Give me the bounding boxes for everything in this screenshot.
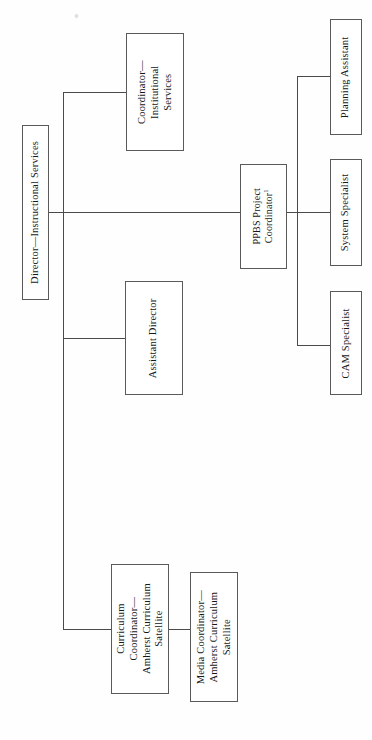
node-assistant-director-label: Assistant Director: [148, 298, 161, 378]
node-ppbs-project-coordinator[interactable]: PPBS ProjectCoordinator1: [240, 164, 287, 269]
media-line-3: Satellite: [220, 619, 231, 655]
org-chart-canvas: Director—Instructional Services Coordina…: [0, 0, 372, 740]
node-ppbs-project-coordinator-label: PPBS ProjectCoordinator1: [251, 188, 275, 245]
connector-to-planning-assistant: [297, 76, 330, 77]
node-director-label: Director—Instructional Services: [29, 141, 42, 284]
connector-curriculum-to-media: [169, 629, 190, 630]
connector-to-cam-specialist: [297, 345, 330, 346]
node-coordinator-institutional-services-label: Coordinator—InstitutionalServices: [136, 60, 174, 124]
node-cam-specialist[interactable]: CAM Specialist: [330, 291, 362, 395]
node-coordinator-institutional-services[interactable]: Coordinator—InstitutionalServices: [126, 33, 184, 151]
node-system-specialist-label: System Specialist: [340, 174, 353, 252]
connector-specialists-trunk: [297, 76, 298, 346]
coordinator-institutional-line-1: Coordinator—: [136, 60, 147, 124]
node-system-specialist[interactable]: System Specialist: [330, 159, 362, 266]
node-media-coordinator-label: Media Coordinator—Amherst CurriculumSate…: [195, 590, 233, 684]
connector-ppbs-to-specialists: [287, 212, 330, 213]
curriculum-line-1: Curriculum: [114, 604, 125, 654]
media-line-1: Media Coordinator—: [195, 590, 206, 684]
media-line-2: Amherst Curriculum: [208, 592, 219, 683]
scan-artifact-speck: [74, 13, 79, 19]
curriculum-line-2: Coordinator—: [127, 597, 138, 661]
coordinator-institutional-line-2: Institutional: [149, 65, 160, 118]
curriculum-line-3: Amherst Curriculum: [140, 584, 151, 675]
coordinator-institutional-line-3: Services: [161, 73, 172, 110]
node-planning-assistant[interactable]: Planning Assistant: [330, 19, 362, 135]
node-cam-specialist-label: CAM Specialist: [340, 308, 353, 378]
connector-to-ppbs-spine: [63, 212, 240, 213]
ppbs-footnote-marker: 1: [262, 190, 269, 193]
node-curriculum-coordinator-label: CurriculumCoordinator—Amherst Curriculum…: [114, 584, 165, 675]
node-media-coordinator[interactable]: Media Coordinator—Amherst CurriculumSate…: [190, 572, 238, 702]
connector-to-curriculum-coordinator: [63, 629, 111, 630]
ppbs-line-1: PPBS Project: [251, 188, 262, 245]
connector-to-coordinator-institutional: [63, 92, 126, 93]
connector-director-stub: [48, 212, 64, 213]
connector-director-trunk: [63, 92, 64, 629]
node-planning-assistant-label: Planning Assistant: [340, 36, 353, 117]
node-curriculum-coordinator[interactable]: CurriculumCoordinator—Amherst Curriculum…: [111, 564, 169, 694]
ppbs-line-2: Coordinator: [264, 193, 275, 244]
curriculum-line-4: Satellite: [153, 611, 164, 647]
node-director[interactable]: Director—Instructional Services: [22, 125, 49, 300]
connector-to-assistant-director: [63, 338, 125, 339]
node-assistant-director[interactable]: Assistant Director: [125, 281, 183, 395]
